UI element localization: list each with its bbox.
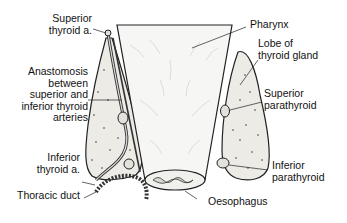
label-anastomosis: Anastomosis between superior and inferio… xyxy=(0,66,88,124)
label-oesophagus: Oesophagus xyxy=(208,196,268,208)
label-inferior-parathyroid: Inferior parathyroid xyxy=(272,160,325,183)
label-lobe-of-thyroid: Lobe of thyroid gland xyxy=(258,38,318,61)
left-inferior-parathyroid xyxy=(124,159,134,169)
thyroid-diagram: Superior thyroid a. Anastomosis between … xyxy=(0,0,347,223)
label-superior-parathyroid: Superior parathyroid xyxy=(264,88,317,111)
label-inferior-thyroid-artery: Inferior thyroid a. xyxy=(20,152,80,175)
label-pharynx: Pharynx xyxy=(250,19,289,31)
label-superior-thyroid-artery: Superior thyroid a. xyxy=(30,13,92,36)
right-superior-parathyroid xyxy=(221,105,230,117)
right-thyroid-lobe xyxy=(222,52,269,180)
label-thoracic-duct: Thoracic duct xyxy=(17,190,80,202)
left-superior-parathyroid xyxy=(118,112,128,124)
right-inferior-parathyroid xyxy=(217,158,229,168)
